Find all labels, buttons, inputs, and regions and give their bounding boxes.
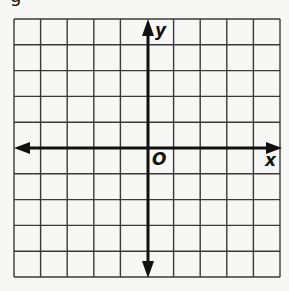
x-axis-label: x <box>264 150 277 170</box>
x-axis-left-arrow-icon <box>14 142 30 154</box>
y-axis-down-arrow-icon <box>142 261 154 278</box>
partial-heading-glyph: g <box>10 0 21 6</box>
y-axis-label: y <box>155 20 167 40</box>
coordinate-plane: y x O g <box>0 0 289 291</box>
y-axis-up-arrow-icon <box>142 19 154 36</box>
origin-label: O <box>152 149 166 169</box>
